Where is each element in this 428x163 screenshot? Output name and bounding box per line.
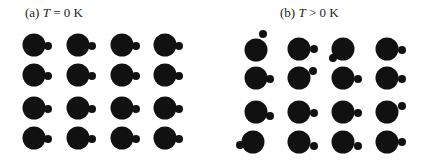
- small-atom-circle: [354, 75, 362, 83]
- large-atom-circle: [376, 131, 399, 154]
- atom-pair: [329, 38, 355, 63]
- atom-pair: [245, 30, 268, 62]
- atom-pair: [288, 101, 319, 124]
- large-atom-circle: [67, 34, 90, 57]
- atom-pair: [154, 64, 184, 87]
- small-atom-circle: [310, 142, 318, 150]
- small-atom-circle: [398, 102, 406, 110]
- atom-pair: [376, 131, 407, 154]
- small-atom-circle: [354, 142, 362, 150]
- large-atom-circle: [288, 67, 311, 90]
- atom-pair: [67, 97, 97, 120]
- large-atom-circle: [376, 38, 399, 61]
- small-atom-circle: [259, 30, 267, 38]
- large-atom-circle: [245, 39, 268, 62]
- small-atom-circle: [354, 109, 362, 117]
- large-atom-circle: [288, 101, 311, 124]
- small-atom-circle: [398, 138, 406, 146]
- large-atom-circle: [67, 97, 90, 120]
- large-atom-circle: [376, 67, 399, 90]
- large-atom-circle: [288, 38, 311, 61]
- small-atom-circle: [398, 46, 406, 54]
- atom-pair: [23, 127, 53, 150]
- atom-pair: [376, 101, 407, 124]
- atom-pair: [376, 67, 407, 90]
- large-atom-circle: [67, 64, 90, 87]
- atom-pair: [288, 38, 319, 61]
- large-atom-circle: [376, 101, 399, 124]
- large-atom-circle: [154, 97, 177, 120]
- atom-pair: [67, 127, 97, 150]
- large-atom-circle: [23, 97, 46, 120]
- large-atom-circle: [332, 38, 355, 61]
- large-atom-circle: [23, 34, 46, 57]
- large-atom-circle: [154, 127, 177, 150]
- large-atom-circle: [67, 127, 90, 150]
- atom-pair: [23, 34, 53, 57]
- large-atom-circle: [288, 131, 311, 154]
- atom-lattice-diagram: [0, 0, 428, 163]
- atom-pair: [332, 131, 363, 154]
- large-atom-circle: [245, 101, 268, 124]
- atom-pair: [111, 97, 141, 120]
- atom-pair: [288, 131, 319, 154]
- small-atom-circle: [309, 67, 317, 75]
- atom-pair: [111, 34, 141, 57]
- atom-pair: [154, 34, 184, 57]
- large-atom-circle: [23, 127, 46, 150]
- atom-pair: [67, 34, 97, 57]
- atom-pair: [376, 38, 407, 61]
- atom-pair: [245, 101, 275, 124]
- atom-pair: [23, 64, 53, 87]
- atom-pair: [245, 67, 275, 90]
- large-atom-circle: [332, 67, 355, 90]
- large-atom-circle: [111, 34, 134, 57]
- atom-pair: [288, 67, 318, 90]
- large-atom-circle: [154, 34, 177, 57]
- small-atom-circle: [310, 45, 318, 53]
- atom-pair: [154, 97, 184, 120]
- large-atom-circle: [111, 97, 134, 120]
- large-atom-circle: [23, 64, 46, 87]
- large-atom-circle: [111, 127, 134, 150]
- atom-pair: [111, 127, 141, 150]
- panel-b-lattice: [236, 30, 406, 154]
- atom-pair: [236, 131, 265, 154]
- atom-pair: [67, 64, 97, 87]
- small-atom-circle: [310, 109, 318, 117]
- atom-pair: [111, 64, 141, 87]
- panel-a-lattice: [23, 34, 184, 150]
- atom-pair: [23, 97, 53, 120]
- large-atom-circle: [245, 67, 268, 90]
- large-atom-circle: [154, 64, 177, 87]
- atom-pair: [332, 67, 363, 90]
- atom-pair: [154, 127, 184, 150]
- atom-pair: [332, 101, 363, 124]
- large-atom-circle: [332, 101, 355, 124]
- large-atom-circle: [242, 131, 265, 154]
- large-atom-circle: [332, 131, 355, 154]
- small-atom-circle: [398, 75, 406, 83]
- large-atom-circle: [111, 64, 134, 87]
